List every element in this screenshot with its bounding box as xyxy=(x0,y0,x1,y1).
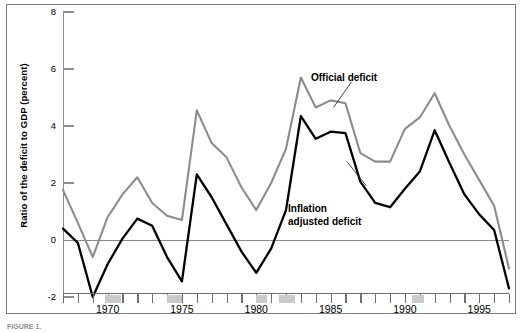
x-tick-mark xyxy=(375,294,376,303)
x-tick-label: 1980 xyxy=(226,303,286,315)
x-tick-mark xyxy=(212,294,213,303)
x-tick-mark xyxy=(316,294,317,303)
recession-band xyxy=(167,295,182,303)
x-tick-mark xyxy=(122,294,123,303)
label-official-deficit: Official deficit xyxy=(311,72,377,85)
x-axis xyxy=(63,293,509,303)
x-tick-mark xyxy=(464,294,465,303)
x-tick-mark xyxy=(494,294,495,303)
x-tick-mark xyxy=(137,294,138,303)
y-axis-title: Ratio of the deficit to GDP (percent) xyxy=(18,26,29,266)
x-tick-mark xyxy=(63,294,64,303)
y-tick-label: 8 xyxy=(22,7,56,17)
x-tick-mark xyxy=(360,294,361,303)
x-tick-mark xyxy=(345,294,346,303)
leader-line-inflation xyxy=(347,162,366,186)
figure-panel: Ratio of the deficit to GDP (percent) 86… xyxy=(0,0,522,333)
x-tick-mark xyxy=(405,294,406,303)
series-inflation-adjusted-deficit xyxy=(63,116,509,297)
series-official-deficit xyxy=(63,78,509,269)
y-tick-label: 2 xyxy=(22,178,56,188)
x-tick-label: 1970 xyxy=(78,303,138,315)
figure-caption: FIGURE 1. xyxy=(7,323,307,332)
x-tick-mark xyxy=(390,294,391,303)
x-tick-mark xyxy=(78,294,79,303)
x-tick-label: 1995 xyxy=(449,303,509,315)
chart-plot-area xyxy=(63,12,509,297)
x-tick-mark xyxy=(271,294,272,303)
x-tick-mark xyxy=(435,294,436,303)
x-tick-mark xyxy=(182,294,183,303)
y-tick-label: -2 xyxy=(22,292,56,302)
y-tick-label: 6 xyxy=(22,64,56,74)
recession-band xyxy=(105,295,121,303)
x-tick-mark xyxy=(509,294,510,303)
x-tick-mark xyxy=(227,294,228,303)
y-tick-label: 0 xyxy=(22,235,56,245)
x-tick-label: 1985 xyxy=(301,303,361,315)
x-tick-mark xyxy=(93,294,94,303)
x-tick-mark xyxy=(197,294,198,303)
recession-band xyxy=(412,295,424,303)
x-tick-mark xyxy=(450,294,451,303)
x-tick-label: 1975 xyxy=(152,303,212,315)
x-tick-label: 1990 xyxy=(375,303,435,315)
recession-band xyxy=(279,295,295,303)
x-tick-mark xyxy=(301,294,302,303)
y-tick-label: 4 xyxy=(22,121,56,131)
x-tick-mark xyxy=(331,294,332,303)
recession-band xyxy=(256,295,266,303)
x-tick-mark xyxy=(241,294,242,303)
x-tick-mark xyxy=(479,294,480,303)
label-inflation-adjusted-deficit: Inflation adjusted deficit xyxy=(288,203,361,228)
x-tick-mark xyxy=(152,294,153,303)
